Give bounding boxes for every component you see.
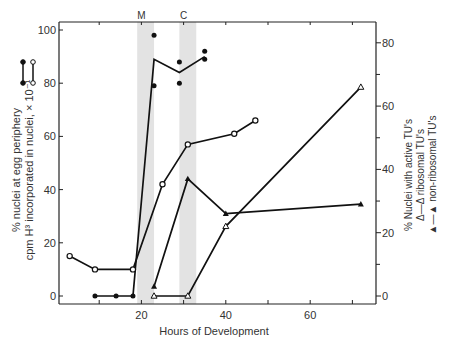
- series-line: [70, 120, 256, 269]
- right-y-tick-label: 80: [382, 37, 394, 49]
- right-y-tick-label: 20: [382, 227, 394, 239]
- open-circle-marker: [253, 118, 258, 123]
- open-circle-marker: [130, 267, 135, 272]
- right-y-label-line: ▲—▲ non-ribosomal TU's: [427, 116, 438, 235]
- open-circle-marker: [185, 142, 190, 147]
- x-tick-label: 40: [220, 309, 232, 321]
- open-circle-marker: [232, 131, 237, 136]
- x-tick-label: 60: [304, 309, 316, 321]
- chart: 204060Hours of Development02040608010002…: [0, 0, 458, 346]
- open-circle-marker: [67, 254, 72, 259]
- right-y-label-line: % Nuclei with active TU's: [403, 119, 414, 231]
- right-y-label-line: Δ—Δ ribosomal TU's: [415, 129, 426, 221]
- filled-circle-marker: [130, 294, 135, 299]
- left-y-tick-label: 80: [44, 77, 56, 89]
- left-y-tick-label: 60: [44, 130, 56, 142]
- filled-circle-marker: [202, 57, 207, 62]
- right-y-tick-label: 60: [382, 100, 394, 112]
- x-tick-label: 20: [135, 309, 147, 321]
- x-axis-label: Hours of Development: [159, 325, 268, 337]
- left-y-label-line: cpm H³ incorporated in nuclei, × 10⁻¹: [23, 79, 35, 260]
- left-y-tick-label: 20: [44, 237, 56, 249]
- filled-circle-marker: [152, 33, 157, 38]
- left-y-tick-label: 40: [44, 184, 56, 196]
- right-y-tick-label: 40: [382, 163, 394, 175]
- filled-circle-marker: [177, 59, 182, 64]
- annotation-label-c: C: [180, 10, 187, 21]
- filled-circle-marker: [177, 81, 182, 86]
- left-y-tick-label: 0: [50, 290, 56, 302]
- filled-circle-marker: [92, 294, 97, 299]
- right-y-tick-label: 0: [382, 290, 388, 302]
- open-triangle-marker: [358, 84, 364, 89]
- left-y-label-line: % nuclei at egg periphery: [10, 107, 22, 232]
- filled-circle-marker: [202, 49, 207, 54]
- open-circle-marker: [160, 182, 165, 187]
- annotation-label-m: M: [137, 10, 145, 21]
- open-circle-marker: [92, 267, 97, 272]
- series-1: [67, 118, 258, 272]
- left-y-axis-label: % nuclei at egg peripherycpm H³ incorpor…: [10, 79, 35, 260]
- left-y-tick-label: 100: [38, 24, 56, 36]
- open-circle-legend-icon: [31, 60, 36, 86]
- filled-circle-legend-icon: [21, 60, 26, 86]
- filled-circle-marker: [114, 294, 119, 299]
- right-y-axis-label: % Nuclei with active TU'sΔ—Δ ribosomal T…: [403, 116, 438, 235]
- filled-circle-marker: [152, 83, 157, 88]
